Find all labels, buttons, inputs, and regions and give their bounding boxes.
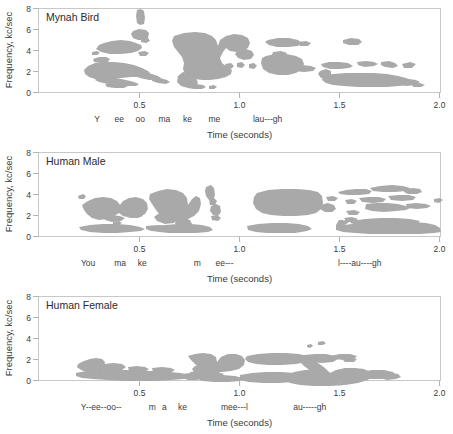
x-tick-label-10: 1.0: [234, 388, 246, 398]
y-tick-label-8: 8: [26, 4, 31, 14]
y-tick-label-8: 8: [26, 292, 31, 302]
spectrogram-blob: [261, 54, 304, 75]
y-tick-label-0: 0: [26, 88, 31, 98]
x-tick-label-15: 1.5: [334, 100, 346, 110]
panel-title: Human Male: [46, 155, 106, 167]
syllable-label: Y: [94, 114, 100, 124]
y-axis-ticks: 0 2 4 6 8: [26, 292, 38, 386]
x-axis-label: Time (seconds): [207, 273, 272, 284]
syllable-label: a: [162, 402, 167, 412]
syllable-label: ma: [158, 114, 170, 124]
spectrogram-blob: [136, 9, 145, 25]
x-axis-label: Time (seconds): [207, 417, 272, 428]
syllable-label: You: [81, 258, 96, 268]
syllable-annotations: Y--ee--oo--makemee---lau-----gh: [81, 402, 327, 412]
syllable-label: Y--ee--oo--: [81, 402, 122, 412]
x-tick-label-20: 2.0: [434, 100, 446, 110]
x-tick-label-15: 1.5: [334, 244, 346, 254]
y-tick-label-0: 0: [26, 232, 31, 242]
panel-human-female: 0 2 4 6 8 Frequency, kc/sec Human Female…: [0, 288, 453, 433]
syllable-label: lau---gh: [253, 114, 283, 124]
syllable-label: l----au----gh: [338, 258, 382, 268]
y-tick-label-4: 4: [26, 334, 31, 344]
syllable-label: ee---: [216, 258, 234, 268]
panel-mynah-bird: 0 2 4 6 8 Frequency, kc/sec Mynah Bird 0…: [0, 0, 453, 145]
x-axis-ticks: 0.5 1.0 1.5 2.0: [134, 381, 446, 399]
syllable-label: ke: [178, 402, 187, 412]
panel-title: Human Female: [46, 299, 118, 311]
y-axis-label: Frequency, kc/sec: [3, 300, 14, 377]
panel-title: Mynah Bird: [46, 11, 99, 23]
y-axis-ticks: 0 2 4 6 8: [26, 4, 38, 98]
x-tick-label-15: 1.5: [334, 388, 346, 398]
x-axis-label: Time (seconds): [207, 129, 272, 140]
y-tick-label-4: 4: [26, 46, 31, 56]
y-tick-label-2: 2: [26, 211, 31, 221]
x-tick-label-10: 1.0: [234, 100, 246, 110]
x-tick-label-20: 2.0: [434, 244, 446, 254]
syllable-label: me: [208, 114, 220, 124]
x-tick-label-05: 0.5: [134, 244, 146, 254]
y-axis-label: Frequency, kc/sec: [3, 156, 14, 233]
syllable-label: ee: [114, 114, 124, 124]
y-tick-label-4: 4: [26, 190, 31, 200]
syllable-label: ke: [183, 114, 192, 124]
y-tick-label-2: 2: [26, 67, 31, 77]
panel-mynah-bird-plot: 0 2 4 6 8 Frequency, kc/sec Mynah Bird 0…: [0, 0, 453, 145]
syllable-label: au-----gh: [293, 402, 326, 412]
y-tick-label-6: 6: [26, 313, 31, 323]
x-axis-ticks: 0.5 1.0 1.5 2.0: [134, 93, 446, 111]
x-tick-label-20: 2.0: [434, 388, 446, 398]
syllable-label: mee---l: [221, 402, 248, 412]
syllable-label: ke: [138, 258, 147, 268]
x-tick-label-10: 1.0: [234, 244, 246, 254]
panel-human-female-plot: 0 2 4 6 8 Frequency, kc/sec Human Female…: [0, 288, 453, 434]
panel-human-male-plot: 0 2 4 6 8 Frequency, kc/sec Human Male 0…: [0, 144, 453, 289]
y-tick-label-0: 0: [26, 376, 31, 386]
x-tick-label-05: 0.5: [134, 100, 146, 110]
syllable-annotations: Youmakemee---l----au----gh: [81, 258, 382, 268]
x-tick-label-05: 0.5: [134, 388, 146, 398]
panel-human-male: 0 2 4 6 8 Frequency, kc/sec Human Male 0…: [0, 144, 453, 289]
y-tick-label-8: 8: [26, 148, 31, 158]
y-axis-ticks: 0 2 4 6 8: [26, 148, 38, 242]
x-axis-ticks: 0.5 1.0 1.5 2.0: [134, 237, 446, 255]
syllable-label: m: [149, 402, 156, 412]
syllable-label: oo: [136, 114, 146, 124]
y-axis-label: Frequency, kc/sec: [3, 12, 14, 89]
y-tick-label-6: 6: [26, 169, 31, 179]
syllable-annotations: Yeeoomakemelau---gh: [94, 114, 282, 124]
syllable-label: ma: [114, 258, 126, 268]
spectrogram-blob: [388, 195, 416, 201]
syllable-label: m: [194, 258, 201, 268]
y-tick-label-6: 6: [26, 25, 31, 35]
spectrogram-blob: [253, 189, 323, 216]
spectrogram-figure: 0 2 4 6 8 Frequency, kc/sec Mynah Bird 0…: [0, 0, 453, 434]
y-tick-label-2: 2: [26, 355, 31, 365]
